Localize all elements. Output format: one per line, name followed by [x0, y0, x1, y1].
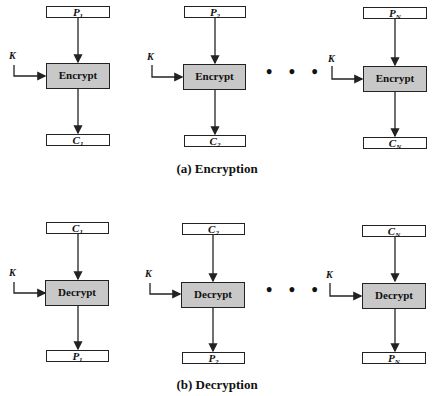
block-subscript: 1	[79, 228, 83, 236]
block-subscript: 2	[215, 358, 219, 366]
block-subscript: 1	[79, 356, 83, 364]
decrypt-box-n: Decrypt	[362, 283, 426, 309]
block-subscript: 2	[217, 12, 221, 20]
block-subscript: 2	[217, 141, 221, 149]
block-subscript: 1	[80, 140, 84, 148]
decrypt-box-1: Decrypt	[45, 280, 109, 306]
encryption-caption: (a) Encryption	[0, 161, 434, 177]
ciphertext-block-1: C1	[46, 134, 110, 146]
plaintext-block-n: PN	[362, 352, 426, 364]
encrypt-box-1: Encrypt	[46, 63, 110, 89]
connector-layer	[0, 0, 434, 396]
ciphertext-block-2: C2	[182, 223, 245, 235]
ciphertext-block-1: C1	[46, 222, 109, 234]
block-label: C	[210, 135, 217, 147]
ellipsis: • • •	[266, 280, 324, 301]
key-label: K	[9, 267, 16, 278]
plaintext-block-1: P1	[46, 6, 110, 18]
block-subscript: N	[395, 358, 400, 366]
ciphertext-block-2: C2	[184, 135, 246, 147]
encrypt-box-n: Encrypt	[363, 66, 427, 92]
block-label: P	[210, 6, 217, 18]
block-label: C	[73, 134, 80, 146]
key-label: K	[145, 268, 152, 279]
block-label: P	[73, 6, 80, 18]
block-subscript: N	[396, 143, 401, 151]
block-subscript: 2	[215, 229, 219, 237]
block-label: P	[388, 352, 395, 364]
decrypt-box-2: Decrypt	[181, 282, 245, 308]
encrypt-box-2: Encrypt	[183, 64, 246, 90]
plaintext-block-n: PN	[363, 7, 427, 19]
key-label: K	[326, 269, 333, 280]
ellipsis: • • •	[266, 62, 324, 83]
plaintext-block-2: P2	[184, 6, 246, 18]
ciphertext-block-n: CN	[362, 225, 426, 237]
key-label: K	[9, 50, 16, 61]
block-label: P	[389, 7, 396, 19]
block-subscript: 1	[80, 12, 84, 20]
key-label: K	[328, 53, 335, 64]
plaintext-block-2: P2	[182, 352, 245, 364]
decryption-caption: (b) Decryption	[0, 377, 434, 393]
block-subscript: N	[396, 13, 401, 21]
ciphertext-block-n: CN	[363, 137, 427, 149]
block-subscript: N	[395, 231, 400, 239]
key-label: K	[147, 51, 154, 62]
plaintext-block-1: P1	[46, 350, 109, 362]
